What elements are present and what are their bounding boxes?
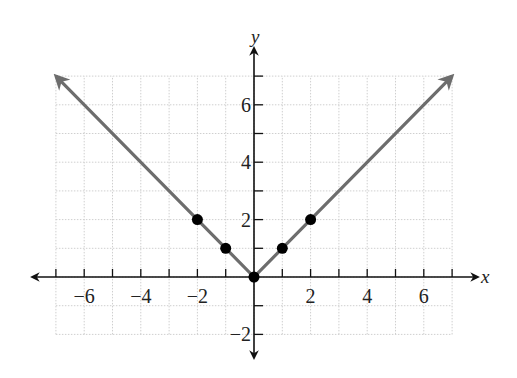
y-tick-label: 6 — [241, 94, 251, 116]
data-point — [305, 214, 316, 225]
y-tick-label: −2 — [230, 323, 251, 345]
axes — [32, 48, 478, 358]
data-point — [249, 272, 260, 283]
y-tick-label: 4 — [241, 151, 251, 173]
x-tick-label: 4 — [362, 285, 372, 307]
data-point — [192, 214, 203, 225]
x-tick-label: −4 — [130, 285, 151, 307]
x-axis-label: x — [480, 266, 490, 287]
absolute-value-graph: −6−4−2246−2246 x y — [0, 0, 517, 378]
x-tick-label: 2 — [306, 285, 316, 307]
x-tick-label: −6 — [74, 285, 95, 307]
data-point — [220, 243, 231, 254]
data-point — [277, 243, 288, 254]
y-axis-label: y — [249, 26, 260, 47]
x-tick-label: 6 — [419, 285, 429, 307]
y-tick-label: 2 — [241, 209, 251, 231]
x-tick-label: −2 — [187, 285, 208, 307]
